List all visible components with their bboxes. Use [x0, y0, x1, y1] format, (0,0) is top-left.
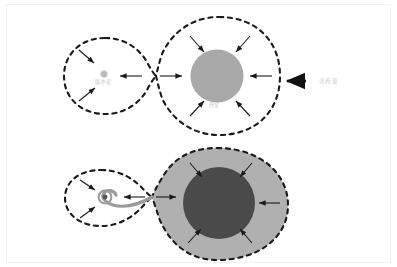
- figure-canvas: 脉冲星 伴星 洛希瓣: [0, 0, 397, 267]
- inward-arrow-icon: [80, 180, 95, 190]
- inward-arrow-icon: [190, 36, 204, 52]
- companion-star-bottom: [183, 167, 255, 239]
- inward-arrow-icon: [236, 101, 250, 116]
- bottom-panel-group: [65, 148, 288, 260]
- pulsar-bottom: [103, 195, 108, 200]
- pulsar-roche-lobe-top: [64, 38, 156, 114]
- label-pulsar-top: 脉冲星: [95, 78, 111, 85]
- label-companion-top: 伴星: [209, 101, 220, 108]
- inward-arrow-icon: [190, 101, 204, 116]
- label-roche-lobe: 洛希瓣: [319, 77, 338, 85]
- pulsar-roche-lobe-bottom: [65, 170, 152, 226]
- diagram-svg: [0, 0, 397, 267]
- inward-arrow-icon: [80, 207, 95, 218]
- companion-star-top: [191, 50, 244, 103]
- inward-arrow-icon: [79, 50, 94, 63]
- top-panel-group: [64, 17, 306, 135]
- inward-arrow-icon: [236, 36, 250, 52]
- inward-arrow-icon: [79, 88, 95, 101]
